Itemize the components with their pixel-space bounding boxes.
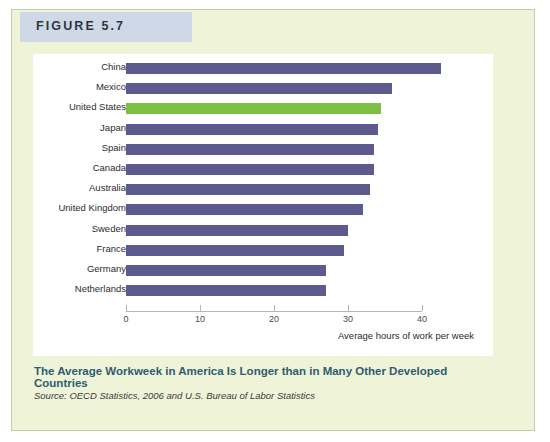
bar bbox=[126, 83, 392, 94]
bar bbox=[126, 265, 326, 276]
bar-chart: ChinaMexicoUnited StatesJapanSpainCanada… bbox=[34, 55, 492, 355]
bar bbox=[126, 225, 348, 236]
category-axis-labels: ChinaMexicoUnited StatesJapanSpainCanada… bbox=[26, 55, 126, 355]
figure-source: Source: OECD Statistics, 2006 and U.S. B… bbox=[34, 390, 504, 401]
figure-number-tab: FIGURE 5.7 bbox=[20, 12, 192, 42]
x-axis-line bbox=[126, 311, 422, 312]
chart-panel: ChinaMexicoUnited StatesJapanSpainCanada… bbox=[34, 55, 492, 355]
category-label: Netherlands bbox=[16, 283, 126, 294]
x-tick-label: 40 bbox=[417, 314, 427, 324]
category-label: France bbox=[16, 243, 126, 254]
category-label: Australia bbox=[16, 182, 126, 193]
x-tick-mark bbox=[348, 305, 349, 311]
bar bbox=[126, 144, 374, 155]
bar bbox=[126, 184, 370, 195]
x-tick-mark bbox=[200, 305, 201, 311]
bar bbox=[126, 124, 378, 135]
category-label: Sweden bbox=[16, 223, 126, 234]
x-tick-mark bbox=[126, 305, 127, 311]
x-tick-label: 20 bbox=[269, 314, 279, 324]
x-tick-label: 0 bbox=[123, 314, 128, 324]
bar bbox=[126, 103, 381, 114]
category-label: Mexico bbox=[16, 81, 126, 92]
category-label: United Kingdom bbox=[16, 202, 126, 213]
bar bbox=[126, 164, 374, 175]
bar bbox=[126, 245, 344, 256]
x-axis-title: Average hours of work per week bbox=[334, 330, 474, 342]
bars-container bbox=[126, 55, 492, 355]
category-label: Japan bbox=[16, 122, 126, 133]
bar bbox=[126, 285, 326, 296]
category-label: Spain bbox=[16, 142, 126, 153]
figure-caption: The Average Workweek in America Is Longe… bbox=[34, 365, 504, 389]
category-label: China bbox=[16, 61, 126, 72]
x-tick-mark bbox=[422, 305, 423, 311]
category-label: Germany bbox=[16, 263, 126, 274]
figure-number-label: FIGURE 5.7 bbox=[36, 19, 125, 33]
category-label: Canada bbox=[16, 162, 126, 173]
figure-page: FIGURE 5.7 ChinaMexicoUnited StatesJapan… bbox=[0, 0, 550, 442]
x-tick-label: 10 bbox=[195, 314, 205, 324]
x-tick-label: 30 bbox=[343, 314, 353, 324]
x-tick-mark bbox=[274, 305, 275, 311]
source-text: Source: OECD Statistics, 2006 and U.S. B… bbox=[34, 390, 315, 401]
category-label: United States bbox=[16, 101, 126, 112]
bar bbox=[126, 204, 363, 215]
bar bbox=[126, 63, 441, 74]
